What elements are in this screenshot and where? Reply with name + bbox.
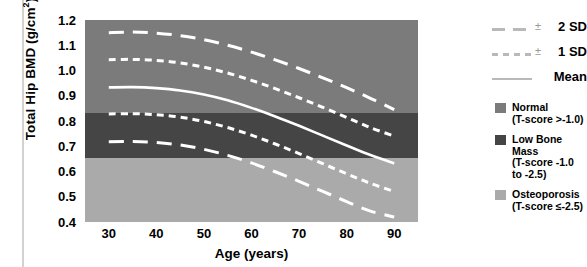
- y-axis-title-tail: ): [23, 0, 38, 2]
- y-axis-title: Total Hip BMD (g/cm2): [21, 0, 39, 159]
- y-axis-tick-1-0: 1.0: [46, 64, 76, 77]
- y-axis-title-superscript: 2: [21, 2, 31, 7]
- legend-line-2-sd: ±2 SD: [492, 18, 587, 43]
- plot-area: [85, 20, 418, 222]
- legend-swatch-text-line-1: Low Bone Mass: [512, 134, 587, 157]
- legend-swatch-normal: Normal(T-score >-1.0): [492, 102, 587, 125]
- legend-swatch-osteoporosis: Osteoporosis(T-score ≤-2.5): [492, 189, 587, 212]
- legend-swatch-low-bone-mass: Low Bone Mass(T-score -1.0to -2.5): [492, 134, 587, 180]
- legend-swatch-color: [495, 103, 506, 113]
- curve-1-sd: [109, 114, 394, 192]
- y-axis-tick-0-7: 0.7: [46, 140, 76, 153]
- legend-swatch-color: [495, 135, 506, 145]
- y-axis-tick-0-9: 0.9: [46, 89, 76, 102]
- legend-swatch-text-line-1: Normal: [512, 102, 587, 114]
- legend-swatch-text-line-1: Osteoporosis: [512, 189, 587, 201]
- y-axis-title-text: Total Hip BMD (g/cm: [23, 7, 38, 140]
- chart-legend: ±2 SD±1 SDMeanNormal(T-score >-1.0)Low B…: [492, 18, 587, 212]
- legend-swatch-text-line-2: (T-score -1.0: [512, 157, 587, 169]
- x-axis-tick-80: 80: [339, 226, 353, 241]
- x-axis-tick-70: 70: [292, 226, 306, 241]
- legend-line-1-sd: ±1 SD: [492, 43, 587, 68]
- legend-swatch-text-line-3: to -2.5): [512, 169, 587, 181]
- y-axis-tick-1-1: 1.1: [46, 39, 76, 52]
- legend-line-sample-long-dash: [492, 28, 532, 31]
- x-axis-tick-labels: 30405060708090: [85, 226, 418, 244]
- curve-2-sd: [109, 32, 394, 110]
- legend-line-label: 2 SD: [544, 19, 587, 34]
- curve-mean: [109, 87, 394, 163]
- y-axis-tick-labels: 1.21.11.00.90.80.70.60.50.4: [44, 0, 76, 267]
- legend-line-sample-solid: [492, 78, 532, 80]
- chart-figure: Total Hip BMD (g/cm2) 1.21.11.00.90.80.7…: [0, 0, 587, 267]
- legend-swatch-color: [495, 190, 506, 200]
- legend-plusminus-icon: ±: [535, 20, 541, 32]
- x-axis-tick-40: 40: [149, 226, 163, 241]
- x-axis-title: Age (years): [85, 246, 418, 261]
- y-axis-tick-1-2: 1.2: [46, 14, 76, 27]
- x-axis-tick-30: 30: [102, 226, 116, 241]
- legend-line-mean: Mean: [492, 68, 587, 93]
- y-axis-tick-0-5: 0.5: [46, 190, 76, 203]
- y-axis-tick-0-8: 0.8: [46, 115, 76, 128]
- legend-line-label: Mean: [544, 69, 587, 84]
- y-axis-tick-0-4: 0.4: [46, 216, 76, 229]
- legend-plusminus-icon: ±: [535, 45, 541, 57]
- legend-swatch-text-line-2: (T-score >-1.0): [512, 114, 587, 126]
- x-axis-tick-60: 60: [244, 226, 258, 241]
- curve-1-sd: [109, 59, 394, 136]
- legend-line-sample-short-dash: [492, 53, 532, 56]
- x-axis-tick-90: 90: [387, 226, 401, 241]
- curve-2-sd: [109, 141, 394, 217]
- curves-svg: [85, 20, 418, 222]
- legend-swatch-text-line-2: (T-score ≤-2.5): [512, 201, 587, 213]
- legend-line-label: 1 SD: [544, 44, 587, 59]
- x-axis-tick-50: 50: [197, 226, 211, 241]
- y-axis-tick-0-6: 0.6: [46, 165, 76, 178]
